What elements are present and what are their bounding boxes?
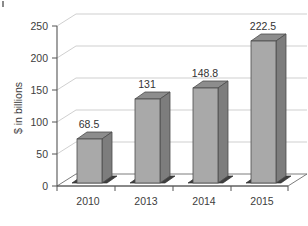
x-category-label-2010: 2010 <box>76 195 100 207</box>
bar-side-face-2014 <box>218 81 228 183</box>
x-tick-marks <box>57 186 288 191</box>
x-category-label-2014: 2014 <box>192 195 216 207</box>
y-tick-label-0: 0 <box>42 180 48 192</box>
bar-group-2015[interactable]: 222.5 <box>246 20 291 183</box>
y-tick-label-100: 100 <box>30 116 48 128</box>
bar-value-label-2010: 68.5 <box>79 118 100 130</box>
bar-front-face-2013 <box>135 99 160 183</box>
y-tick-label-50: 50 <box>36 148 48 160</box>
bar-side-face-2013 <box>160 92 170 183</box>
bar-side-face-2015 <box>276 34 286 183</box>
bar-value-label-2014: 148.8 <box>192 67 218 79</box>
bar-group-2013[interactable]: 131 <box>130 78 175 183</box>
y-tick-label-200: 200 <box>30 52 48 64</box>
bar-front-face-2010 <box>77 139 102 183</box>
bar-front-face-2014 <box>193 88 218 183</box>
bar-value-label-2015: 222.5 <box>250 20 276 32</box>
bar-value-label-2013: 131 <box>138 78 156 90</box>
x-category-label-2013: 2013 <box>134 195 158 207</box>
bar-group-2010[interactable]: 68.5 <box>72 118 117 183</box>
corner-artifact-mark <box>2 1 4 7</box>
x-category-label-2015: 2015 <box>250 195 274 207</box>
bar-chart: 250 200 150 100 50 0 $ in billions 68.5 … <box>0 0 308 226</box>
y-axis-title: $ in billions <box>12 82 24 134</box>
bar-side-face-2010 <box>102 132 112 183</box>
y-tick-marks <box>52 26 57 186</box>
chart-canvas: 250 200 150 100 50 0 $ in billions 68.5 … <box>0 0 308 226</box>
y-tick-label-150: 150 <box>30 84 48 96</box>
bar-group-2014[interactable]: 148.8 <box>188 67 233 183</box>
bar-front-face-2015 <box>251 41 276 183</box>
y-tick-label-250: 250 <box>30 20 48 32</box>
